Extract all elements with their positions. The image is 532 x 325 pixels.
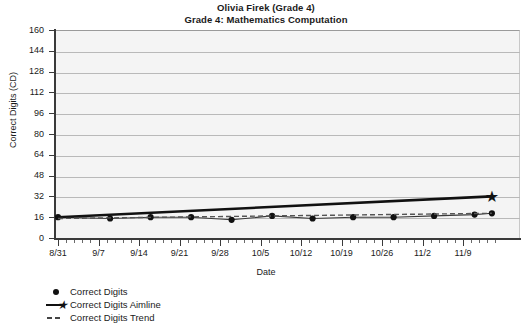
y-tick-label: 0 xyxy=(10,234,44,243)
grid-line xyxy=(55,197,520,198)
x-tick-minor-mark xyxy=(115,240,116,243)
x-tick-minor-mark xyxy=(147,240,148,243)
x-tick-minor-mark xyxy=(406,240,407,243)
x-tick-minor-mark xyxy=(317,240,318,243)
x-tick-minor-mark xyxy=(487,240,488,243)
x-axis-line xyxy=(54,238,521,240)
legend-label: Correct Digits Trend xyxy=(70,311,154,324)
x-tick-minor-mark xyxy=(398,240,399,243)
line-star-marker-icon: ★ xyxy=(44,298,70,311)
x-tick-mark xyxy=(463,240,464,246)
legend-item-correct-digits: Correct Digits xyxy=(44,285,161,298)
x-tick-minor-mark xyxy=(374,240,375,243)
grid-line xyxy=(55,177,520,178)
x-tick-label: 10/19 xyxy=(322,248,362,258)
x-tick-label: 10/5 xyxy=(241,248,281,258)
y-tick-label: 160 xyxy=(10,26,44,35)
x-tick-minor-mark xyxy=(252,240,253,243)
x-tick-minor-mark xyxy=(269,240,270,243)
x-tick-label: 10/12 xyxy=(281,248,321,258)
grid-line xyxy=(55,135,520,136)
x-tick-label: 9/14 xyxy=(119,248,159,258)
x-tick-minor-mark xyxy=(479,240,480,243)
x-tick-minor-mark xyxy=(196,240,197,243)
x-tick-mark xyxy=(99,240,100,246)
x-axis-label: Date xyxy=(0,267,532,277)
x-tick-mark xyxy=(58,240,59,246)
x-tick-minor-mark xyxy=(439,240,440,243)
x-tick-minor-mark xyxy=(277,240,278,243)
x-tick-minor-mark xyxy=(244,240,245,243)
x-tick-label: 10/26 xyxy=(362,248,402,258)
x-tick-minor-mark xyxy=(204,240,205,243)
x-tick-minor-mark xyxy=(350,240,351,243)
x-tick-minor-mark xyxy=(82,240,83,243)
y-tick-mark xyxy=(49,134,55,135)
x-tick-label: 11/9 xyxy=(443,248,483,258)
x-tick-minor-mark xyxy=(358,240,359,243)
dashed-marker-icon xyxy=(44,311,70,324)
x-tick-minor-mark xyxy=(447,240,448,243)
x-tick-minor-mark xyxy=(414,240,415,243)
grid-line xyxy=(55,156,520,157)
y-tick-mark xyxy=(49,238,55,239)
legend-label: Correct Digits xyxy=(70,285,128,298)
x-tick-minor-mark xyxy=(236,240,237,243)
x-tick-minor-mark xyxy=(293,240,294,243)
chart-title: Olivia Firek (Grade 4) xyxy=(0,2,532,14)
chart-title-block: Olivia Firek (Grade 4) Grade 4: Mathemat… xyxy=(0,2,532,26)
x-tick-minor-mark xyxy=(131,240,132,243)
x-tick-minor-mark xyxy=(333,240,334,243)
x-tick-label: 9/7 xyxy=(79,248,119,258)
x-tick-label: 9/28 xyxy=(200,248,240,258)
y-tick-mark xyxy=(49,30,55,31)
x-tick-minor-mark xyxy=(171,240,172,243)
y-tick-label: 32 xyxy=(10,192,44,201)
x-tick-minor-mark xyxy=(471,240,472,243)
plot-area xyxy=(55,30,520,238)
x-tick-minor-mark xyxy=(188,240,189,243)
x-tick-minor-mark xyxy=(390,240,391,243)
grid-line xyxy=(55,114,520,115)
x-tick-mark xyxy=(301,240,302,246)
chart-subtitle: Grade 4: Mathematics Computation xyxy=(0,14,532,26)
x-tick-label: 8/31 xyxy=(38,248,78,258)
y-tick-mark xyxy=(49,155,55,156)
x-tick-mark xyxy=(180,240,181,246)
x-tick-minor-mark xyxy=(495,240,496,243)
x-tick-minor-mark xyxy=(455,240,456,243)
y-tick-label: 16 xyxy=(10,213,44,222)
grid-line xyxy=(55,52,520,53)
x-tick-mark xyxy=(139,240,140,246)
x-tick-mark xyxy=(342,240,343,246)
x-tick-minor-mark xyxy=(123,240,124,243)
chart-legend: Correct Digits ★ Correct Digits Aimline … xyxy=(44,285,161,324)
x-tick-minor-mark xyxy=(107,240,108,243)
y-tick-mark xyxy=(49,217,55,218)
y-tick-mark xyxy=(49,51,55,52)
y-tick-mark xyxy=(49,113,55,114)
y-tick-mark xyxy=(49,72,55,73)
dot-marker-icon xyxy=(44,285,70,298)
y-tick-mark xyxy=(49,196,55,197)
x-tick-minor-mark xyxy=(431,240,432,243)
x-tick-minor-mark xyxy=(309,240,310,243)
x-tick-minor-mark xyxy=(228,240,229,243)
grid-line xyxy=(55,73,520,74)
x-tick-minor-mark xyxy=(74,240,75,243)
legend-item-correct-digits-aimline: ★ Correct Digits Aimline xyxy=(44,298,161,311)
grid-line xyxy=(55,218,520,219)
y-tick-mark xyxy=(49,176,55,177)
x-tick-minor-mark xyxy=(90,240,91,243)
y-tick-mark xyxy=(49,92,55,93)
y-axis-label: Correct Digits (CD) xyxy=(8,35,18,185)
x-tick-label: 9/21 xyxy=(160,248,200,258)
x-tick-mark xyxy=(423,240,424,246)
legend-item-correct-digits-trend: Correct Digits Trend xyxy=(44,311,161,324)
x-tick-minor-mark xyxy=(325,240,326,243)
legend-label: Correct Digits Aimline xyxy=(70,298,161,311)
x-tick-minor-mark xyxy=(285,240,286,243)
grid-line xyxy=(55,93,520,94)
x-tick-minor-mark xyxy=(212,240,213,243)
progress-monitoring-chart: Olivia Firek (Grade 4) Grade 4: Mathemat… xyxy=(0,0,532,325)
